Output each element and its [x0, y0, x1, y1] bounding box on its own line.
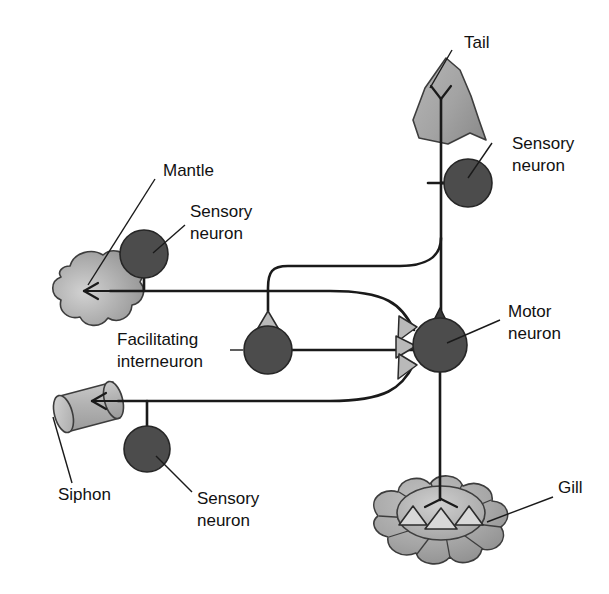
- diagram-canvas: Tail Sensory neuron Mantle Sensory neuro…: [0, 0, 609, 594]
- label-mantle-sensory-neuron-line2: neuron: [190, 224, 243, 243]
- label-facilitating-interneuron-line1: Facilitating: [117, 330, 198, 349]
- label-tail: Tail: [464, 33, 490, 52]
- axon-siphon-pathway: [92, 364, 414, 426]
- soma-motor-neuron[interactable]: [413, 318, 467, 372]
- label-siphon-sensory-neuron-line1: Sensory: [197, 489, 260, 508]
- label-mantle: Mantle: [163, 161, 214, 180]
- label-tail-sensory-neuron-line1: Sensory: [512, 134, 575, 153]
- label-mantle-sensory-neuron-line1: Sensory: [190, 202, 253, 221]
- organ-tail: [413, 58, 486, 144]
- soma-siphon-sensory-neuron[interactable]: [124, 426, 170, 472]
- organ-siphon: [50, 379, 127, 434]
- label-tail-sensory-neuron-line2: neuron: [512, 156, 565, 175]
- label-siphon-sensory-neuron-line2: neuron: [197, 511, 250, 530]
- leader-siphon-sensory-neuron: [156, 456, 192, 492]
- label-siphon: Siphon: [58, 485, 111, 504]
- label-motor-neuron-line2: neuron: [508, 324, 561, 343]
- label-motor-neuron-line1: Motor: [508, 302, 552, 321]
- label-gill: Gill: [558, 478, 583, 497]
- reflex-circuit-diagram: Tail Sensory neuron Mantle Sensory neuro…: [0, 0, 609, 594]
- soma-mantle-sensory-neuron[interactable]: [120, 230, 168, 278]
- soma-facilitating-interneuron[interactable]: [244, 326, 292, 374]
- label-facilitating-interneuron-line2: interneuron: [117, 352, 203, 371]
- soma-tail-sensory-neuron[interactable]: [444, 159, 492, 207]
- axon-tail-branch-to-interneuron: [268, 238, 441, 311]
